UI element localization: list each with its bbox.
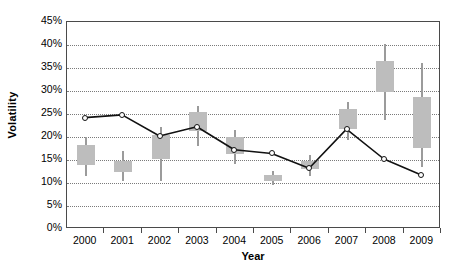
x-tick-mark — [253, 228, 254, 233]
x-tick-mark — [290, 228, 291, 233]
y-tick-10%: 10% — [22, 176, 62, 187]
y-tick-25%: 25% — [22, 107, 62, 118]
y-tick-20%: 20% — [22, 130, 62, 141]
data-point-2007 — [344, 126, 350, 132]
x-tick-2006: 2006 — [289, 234, 329, 246]
x-tick-mark — [103, 228, 104, 233]
x-tick-2007: 2007 — [327, 234, 367, 246]
x-tick-mark — [141, 228, 142, 233]
box-2005 — [264, 175, 282, 181]
y-axis-title-label: Volatility — [6, 91, 18, 138]
box-2001 — [114, 161, 132, 173]
x-tick-2005: 2005 — [252, 234, 292, 246]
x-tick-mark — [216, 228, 217, 233]
y-tick-0%: 0% — [22, 222, 62, 233]
x-tick-mark — [440, 228, 441, 233]
data-point-2008 — [381, 156, 387, 162]
gridline — [67, 137, 439, 138]
y-tick-15%: 15% — [22, 153, 62, 164]
gridline — [67, 183, 439, 184]
x-tick-2001: 2001 — [102, 234, 142, 246]
data-point-2003 — [194, 124, 200, 130]
y-tick-30%: 30% — [22, 84, 62, 95]
box-2000 — [77, 145, 95, 165]
data-point-2002 — [157, 133, 163, 139]
x-tick-mark — [328, 228, 329, 233]
data-point-2000 — [82, 115, 88, 121]
y-tick-35%: 35% — [22, 61, 62, 72]
y-tick-5%: 5% — [22, 199, 62, 210]
y-tick-40%: 40% — [22, 38, 62, 49]
x-tick-mark — [178, 228, 179, 233]
y-axis-title: Volatility — [0, 0, 24, 230]
x-tick-mark — [365, 228, 366, 233]
x-tick-2000: 2000 — [65, 234, 105, 246]
x-axis-title: Year — [66, 250, 440, 262]
x-tick-2008: 2008 — [364, 234, 404, 246]
x-tick-2004: 2004 — [214, 234, 254, 246]
x-tick-2002: 2002 — [140, 234, 180, 246]
x-tick-2003: 2003 — [177, 234, 217, 246]
gridline — [67, 206, 439, 207]
data-point-2001 — [119, 112, 125, 118]
box-2008 — [376, 61, 394, 93]
x-tick-2009: 2009 — [401, 234, 441, 246]
plot-area — [66, 21, 440, 228]
volatility-chart: Volatility 0%5%10%15%20%25%30%35%40%45% … — [0, 0, 455, 270]
y-tick-45%: 45% — [22, 15, 62, 26]
box-2009 — [413, 97, 431, 148]
x-tick-mark — [403, 228, 404, 233]
